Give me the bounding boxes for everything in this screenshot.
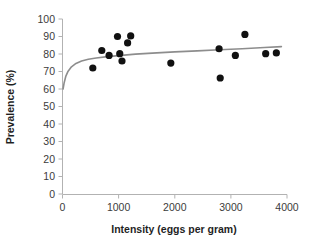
scatter-point (98, 47, 105, 54)
scatter-point (118, 57, 125, 64)
scatter-point (105, 52, 112, 59)
x-tick-label: 4000 (275, 201, 299, 213)
y-tick-label: 40 (43, 118, 55, 130)
x-tick-label: 1000 (107, 201, 131, 213)
scatter-point (262, 50, 269, 57)
y-tick-label: 10 (43, 170, 55, 182)
x-tick-label: 2000 (163, 201, 187, 213)
scatter-chart: 100 90 80 70 60 50 40 30 20 10 0 0 1000 … (0, 0, 309, 248)
y-tick-label: 80 (43, 48, 55, 60)
x-tick-label: 3000 (219, 201, 243, 213)
scatter-point (217, 74, 224, 81)
scatter-point (124, 39, 131, 46)
y-tick-label: 60 (43, 83, 55, 95)
scatter-point (167, 60, 174, 67)
y-tick-label: 0 (49, 188, 55, 200)
y-tick-label: 30 (43, 135, 55, 147)
y-tick-label: 100 (37, 13, 55, 25)
scatter-point (273, 49, 280, 56)
y-tick-label: 70 (43, 65, 55, 77)
scatter-point (215, 45, 222, 52)
y-tick-label: 90 (43, 30, 55, 42)
scatter-point (114, 33, 121, 40)
scatter-point (241, 31, 248, 38)
x-axis-title: Intensity (eggs per gram) (111, 223, 236, 235)
y-tick-label: 20 (43, 153, 55, 165)
scatter-point (89, 64, 96, 71)
scatter-point (232, 52, 239, 59)
scatter-point (116, 50, 123, 57)
x-tick-label: 0 (60, 201, 66, 213)
chart-svg: 100 90 80 70 60 50 40 30 20 10 0 0 1000 … (0, 0, 309, 248)
scatter-point (127, 32, 134, 39)
y-axis-title: Prevalence (%) (4, 70, 16, 145)
y-tick-label: 50 (43, 100, 55, 112)
